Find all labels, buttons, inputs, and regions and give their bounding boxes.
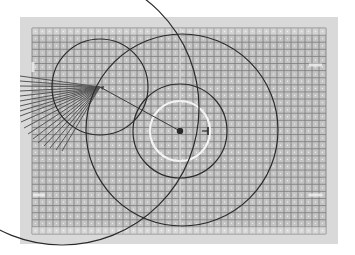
grid-bottom-row (32, 227, 326, 234)
diagram-stage: Pitch grid with coverage circles (0, 0, 355, 255)
pitch-diagram (0, 0, 355, 255)
ball-dot-icon (177, 128, 183, 134)
